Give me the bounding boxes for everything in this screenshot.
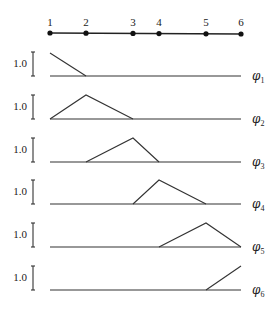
node-label: 6 bbox=[238, 16, 244, 28]
phi-label: φ2 bbox=[252, 112, 264, 128]
mesh-node bbox=[156, 31, 161, 36]
phi-subscript: 3 bbox=[260, 162, 264, 171]
mesh-node bbox=[130, 31, 135, 36]
scale-label: 1.0 bbox=[13, 228, 27, 240]
basis-function-row-1: 1.0φ1 bbox=[13, 52, 264, 85]
scale-label: 1.0 bbox=[13, 271, 27, 283]
scale-label: 1.0 bbox=[13, 143, 27, 155]
basis-function-curve bbox=[50, 95, 133, 119]
phi-label: φ3 bbox=[252, 155, 264, 171]
phi-subscript: 5 bbox=[260, 247, 264, 256]
phi-subscript: 4 bbox=[260, 204, 264, 213]
mesh-node bbox=[203, 31, 208, 36]
scale-label: 1.0 bbox=[13, 57, 27, 69]
node-label: 1 bbox=[47, 16, 53, 28]
mesh-node bbox=[47, 30, 52, 35]
basis-function-row-6: 1.0φ6 bbox=[13, 266, 264, 299]
mesh-node bbox=[83, 31, 88, 36]
basis-function-rows: 1.0φ11.0φ21.0φ31.0φ41.0φ51.0φ6 bbox=[13, 52, 264, 299]
phi-subscript: 1 bbox=[260, 76, 264, 85]
mesh-line bbox=[50, 33, 241, 34]
basis-function-row-4: 1.0φ4 bbox=[13, 180, 264, 213]
basis-function-curve bbox=[86, 138, 159, 162]
scale-label: 1.0 bbox=[13, 185, 27, 197]
finite-element-basis-diagram: 123456 1.0φ11.0φ21.0φ31.0φ41.0φ51.0φ6 bbox=[0, 0, 276, 312]
basis-function-row-3: 1.0φ3 bbox=[13, 138, 264, 171]
basis-function-row-5: 1.0φ5 bbox=[13, 223, 264, 256]
mesh-node bbox=[238, 31, 243, 36]
basis-function-row-2: 1.0φ2 bbox=[13, 95, 264, 128]
phi-label: φ5 bbox=[252, 240, 264, 256]
node-label: 3 bbox=[130, 16, 136, 28]
basis-function-curve bbox=[159, 223, 241, 247]
node-label: 5 bbox=[203, 16, 209, 28]
scale-label: 1.0 bbox=[13, 100, 27, 112]
phi-label: φ6 bbox=[252, 283, 264, 299]
phi-label: φ1 bbox=[252, 69, 264, 85]
node-label: 2 bbox=[83, 16, 89, 28]
phi-subscript: 6 bbox=[260, 290, 264, 299]
basis-function-curve bbox=[133, 180, 206, 204]
phi-label: φ4 bbox=[252, 197, 264, 213]
basis-function-curve bbox=[50, 53, 86, 76]
node-label: 4 bbox=[156, 16, 162, 28]
node-mesh: 123456 bbox=[47, 16, 244, 37]
basis-function-curve bbox=[206, 266, 241, 290]
phi-subscript: 2 bbox=[260, 119, 264, 128]
